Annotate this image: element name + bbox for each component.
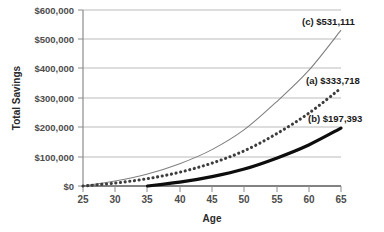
chart-canvas: $600,000 $500,000 $400,000 $300,000 $200… — [0, 0, 384, 232]
x-tick-label-25: 25 — [77, 194, 89, 205]
series-line-a — [83, 88, 341, 186]
x-tick-label-45: 45 — [206, 194, 218, 205]
y-tick-label-300000: $300,000 — [34, 93, 74, 104]
x-tick-label-35: 35 — [141, 194, 153, 205]
x-tick-labels: 25 30 35 40 45 50 55 60 65 — [77, 194, 347, 205]
y-tick-label-500000: $500,000 — [34, 34, 74, 45]
series-annotation-b: (b) $197,393 — [308, 113, 362, 124]
gridlines — [83, 10, 341, 157]
y-tick-label-200000: $200,000 — [34, 122, 74, 133]
y-tick-marks — [78, 10, 83, 186]
y-tick-label-100000: $100,000 — [34, 152, 74, 163]
y-tick-labels: $600,000 $500,000 $400,000 $300,000 $200… — [34, 5, 74, 192]
savings-growth-chart: $600,000 $500,000 $400,000 $300,000 $200… — [0, 0, 384, 232]
data-series-group — [83, 30, 341, 186]
x-tick-label-50: 50 — [238, 194, 250, 205]
x-tick-label-65: 65 — [335, 194, 347, 205]
x-tick-marks — [83, 186, 341, 192]
series-annotation-a: (a) $333,718 — [306, 75, 360, 86]
x-tick-label-60: 60 — [303, 194, 315, 205]
y-axis-title: Total Savings — [11, 65, 22, 130]
y-tick-label-400000: $400,000 — [34, 63, 74, 74]
x-tick-label-30: 30 — [109, 194, 121, 205]
x-tick-label-40: 40 — [174, 194, 186, 205]
x-axis-title: Age — [203, 213, 222, 224]
y-tick-label-600000: $600,000 — [34, 5, 74, 16]
x-tick-label-55: 55 — [271, 194, 283, 205]
series-annotation-c: (c) $531,111 — [302, 16, 356, 27]
y-tick-label-0: $0 — [63, 181, 74, 192]
